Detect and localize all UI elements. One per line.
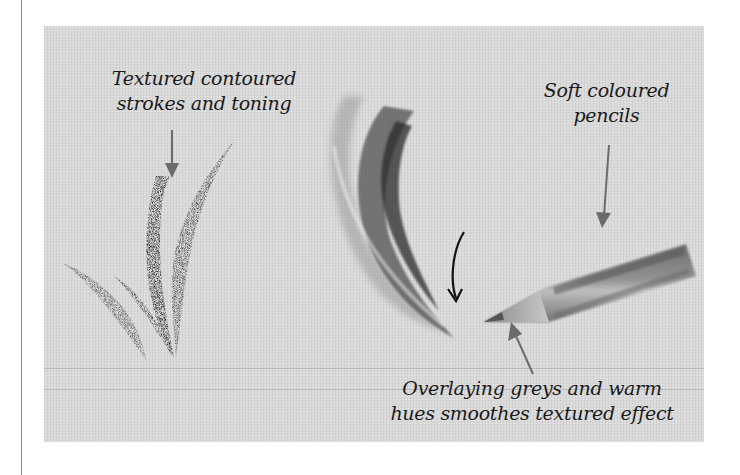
caption-line: pencils <box>534 103 679 128</box>
textured-contoured-stroke <box>64 141 234 360</box>
caption-soft-pencils: Soft coloured pencils <box>534 78 679 128</box>
caption-line: Soft coloured <box>534 78 679 103</box>
blended-soft-stroke <box>331 96 454 338</box>
caption-overlaying-greys: Overlaying greys and warm hues smoothes … <box>382 376 682 426</box>
caption-textured-strokes: Textured contoured strokes and toning <box>104 66 304 116</box>
caption-line: hues smoothes textured effect <box>382 401 682 426</box>
illustration-panel: Textured contoured strokes and toning So… <box>44 26 704 442</box>
arrow-to-textured-stroke <box>165 130 179 178</box>
caption-line: strokes and toning <box>104 91 304 116</box>
caption-line: Textured contoured <box>104 66 304 91</box>
arrow-to-pencil <box>596 145 611 228</box>
coloured-pencil <box>484 244 696 322</box>
page-margin-line <box>21 0 22 475</box>
curved-direction-arrow <box>448 232 464 301</box>
caption-line: Overlaying greys and warm <box>382 376 682 401</box>
arrow-to-blend-tip <box>508 322 533 374</box>
